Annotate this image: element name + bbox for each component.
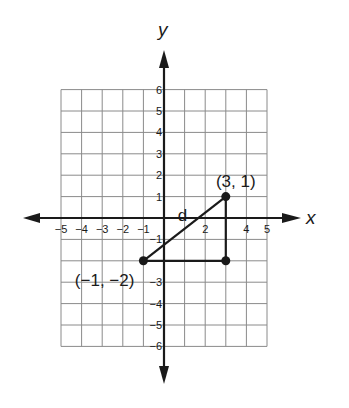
x-axis-right-arrow-icon	[282, 213, 301, 223]
y-axis-up-arrow-icon	[159, 50, 169, 68]
point-marker	[221, 256, 230, 265]
x-axis-label: x	[305, 207, 317, 228]
point-marker	[221, 192, 230, 201]
x-tick-label: −2	[117, 223, 130, 235]
y-tick-label: −5	[149, 319, 162, 331]
y-tick-label: 6	[156, 84, 162, 96]
x-axis-left-arrow-icon	[23, 213, 40, 223]
segment-label: d	[178, 206, 187, 225]
y-tick-label: 3	[156, 148, 162, 160]
coordinate-plane: −5−4−3−2−1245 654321−1−3−4−5−6 d (−1, −2…	[0, 0, 349, 408]
y-tick-label: 1	[156, 191, 162, 203]
y-tick-label: −6	[149, 340, 162, 352]
x-tick-label: 4	[243, 223, 249, 235]
x-tick-label: −3	[96, 223, 109, 235]
point-label: (−1, −2)	[75, 271, 135, 290]
point-marker	[139, 256, 148, 265]
x-tick-label: −1	[137, 223, 150, 235]
axes	[23, 50, 301, 384]
x-tick-labels: −5−4−3−2−1245	[55, 223, 270, 235]
y-tick-label: −4	[149, 298, 162, 310]
y-tick-label: 2	[156, 169, 162, 181]
y-tick-label: 4	[156, 126, 162, 138]
y-axis-label: y	[156, 19, 169, 40]
y-axis-down-arrow-icon	[159, 366, 169, 384]
y-tick-label: 5	[156, 105, 162, 117]
point-label: (3, 1)	[216, 172, 256, 191]
x-tick-label: −4	[75, 223, 88, 235]
y-tick-label: −3	[149, 276, 162, 288]
x-tick-label: 5	[264, 223, 270, 235]
x-tick-label: 2	[202, 223, 208, 235]
x-tick-label: −5	[55, 223, 68, 235]
y-tick-label: −1	[149, 233, 162, 245]
